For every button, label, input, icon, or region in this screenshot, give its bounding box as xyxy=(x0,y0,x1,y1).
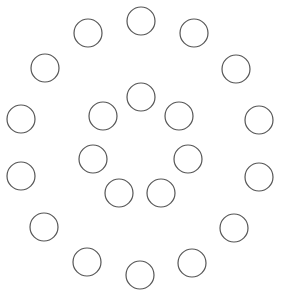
outer-ring-circle-13 xyxy=(31,54,59,82)
inner-ring-circle-3 xyxy=(174,145,202,173)
outer-ring-circle-14 xyxy=(74,19,102,47)
inner-ring-circle-7 xyxy=(89,102,117,130)
outer-ring-circle-4 xyxy=(245,106,273,134)
outer-ring-circle-9 xyxy=(73,248,101,276)
inner-ring-circle-1 xyxy=(127,83,155,111)
outer-ring-circle-11 xyxy=(7,162,35,190)
inner-ring-circle-6 xyxy=(79,145,107,173)
outer-ring-circle-6 xyxy=(220,214,248,242)
outer-ring-circle-1 xyxy=(127,7,155,35)
outer-ring-circle-3 xyxy=(222,55,250,83)
outer-ring-circle-8 xyxy=(126,261,154,289)
diagram-canvas xyxy=(0,0,281,298)
outer-ring-circle-2 xyxy=(180,19,208,47)
circle-diagram xyxy=(0,0,281,298)
outer-ring xyxy=(7,7,273,289)
inner-ring-circle-2 xyxy=(165,102,193,130)
inner-ring xyxy=(79,83,202,207)
outer-ring-circle-10 xyxy=(30,213,58,241)
inner-ring-circle-4 xyxy=(147,179,175,207)
outer-ring-circle-7 xyxy=(178,249,206,277)
inner-ring-circle-5 xyxy=(105,179,133,207)
outer-ring-circle-12 xyxy=(7,105,35,133)
outer-ring-circle-5 xyxy=(245,163,273,191)
